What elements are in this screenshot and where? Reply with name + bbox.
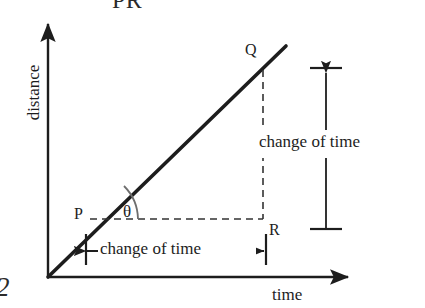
point-label-q: Q [245, 42, 257, 58]
page-number: 2 [0, 274, 10, 301]
horizontal-measure-label: change of time [100, 240, 201, 257]
x-axis-label: time [272, 286, 302, 303]
theta-angle-label: θ [123, 203, 131, 220]
point-label-r: R [269, 222, 280, 238]
distance-time-graph-figure: PR 2 distance time P Q R θ change of tim… [0, 0, 425, 308]
graph-drawing [0, 0, 425, 308]
vertical-measure-label: change of time [259, 133, 360, 150]
point-label-p: P [74, 206, 83, 222]
top-caption: PR [112, 0, 142, 12]
y-axis-label: distance [25, 51, 42, 135]
